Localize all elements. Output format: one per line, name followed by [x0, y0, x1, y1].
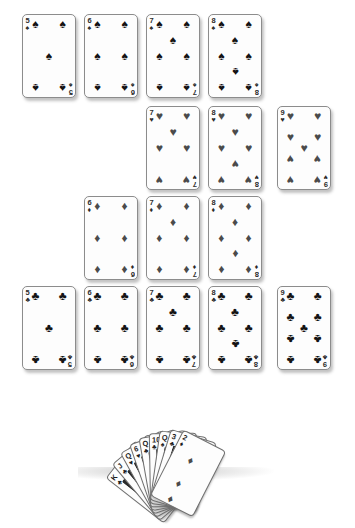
clubs-pip-icon: ♣ [242, 322, 255, 335]
spades-pip-icon: ♠ [242, 81, 255, 94]
card-rank-text: 6 [131, 270, 135, 278]
fanned-hand[interactable]: K♣J♣Q♥6♥Q♣10♣Q♠3♣2♦♦♦♦ [72, 381, 282, 486]
hearts-pip-icon: ♥ [215, 110, 228, 123]
spades-pip-icon: ♠ [215, 18, 228, 31]
hearts-pip-icon: ♥ [311, 173, 324, 186]
card-corner-index-br: 7♥ [193, 174, 197, 188]
card-corner-index-br: 9♥ [324, 174, 328, 188]
card-8-of-spades[interactable]: 8♠8♠♠♠♠♠♠♠♠♠ [208, 14, 262, 98]
hearts-pip-icon: ♥ [167, 126, 180, 139]
clubs-pip-icon: ♣ [284, 290, 297, 303]
spades-pip-icon: ♠ [153, 18, 166, 31]
hearts-pip-icon: ♥ [298, 142, 311, 155]
card-7-of-clubs[interactable]: 7♣7♣♣♣♣♣♣♣♣ [146, 286, 200, 370]
clubs-pip-icon: ♣ [91, 290, 104, 303]
clubs-pip-icon: ♣ [229, 306, 242, 319]
card-rank-text: 7 [193, 88, 197, 96]
spades-pip-icon: ♠ [91, 81, 104, 94]
card-rank-text: 7 [193, 180, 197, 188]
spades-pip-icon: ♠ [167, 34, 180, 47]
spades-pip-icon: ♠ [91, 50, 104, 63]
diamonds-pip-icon: ♦ [91, 232, 104, 245]
card-8-of-diamonds[interactable]: 8♦8♦♦♦♦♦♦♦♦♦ [208, 196, 262, 280]
card-rank-text: 5 [69, 88, 73, 96]
diamonds-pip-icon: ♦ [153, 232, 166, 245]
clubs-pip-icon: ♣ [215, 353, 228, 366]
card-7-of-hearts[interactable]: 7♥7♥♥♥♥♥♥♥♥ [146, 106, 200, 190]
clubs-pip-icon: ♣ [242, 290, 255, 303]
card-pip-field: ♠♠♠♠♠♠ [92, 19, 130, 93]
clubs-pip-icon: ♣ [284, 311, 297, 324]
spades-pip-icon: ♠ [29, 81, 42, 94]
spades-pip-icon: ♠ [180, 50, 193, 63]
clubs-pip-icon: ♣ [242, 353, 255, 366]
card-pip-field: ♠♠♠♠♠♠♠♠ [216, 19, 254, 93]
hearts-pip-icon: ♥ [180, 110, 193, 123]
clubs-pip-icon: ♣ [284, 332, 297, 345]
clubs-pip-icon: ♣ [311, 332, 324, 345]
card-6-of-spades[interactable]: 6♠6♠♠♠♠♠♠♠ [84, 14, 138, 98]
diamonds-pip-icon: ♦ [183, 453, 199, 468]
spades-pip-icon: ♠ [91, 18, 104, 31]
card-corner-index-br: 8♥ [255, 174, 259, 188]
clubs-pip-icon: ♣ [153, 290, 166, 303]
diamonds-pip-icon: ♦ [153, 263, 166, 276]
card-6-of-diamonds[interactable]: 6♦6♦♦♦♦♦♦♦ [84, 196, 138, 280]
card-5-of-clubs[interactable]: 5♣5♣♣♣♣♣♣ [22, 286, 76, 370]
card-pip-field: ♦♦♦♦♦♦♦♦ [216, 201, 254, 275]
card-5-of-spades[interactable]: 5♠5♠♠♠♠♠♠ [22, 14, 76, 98]
diamonds-pip-icon: ♦ [91, 200, 104, 213]
diamonds-pip-icon: ♦ [118, 200, 131, 213]
spades-pip-icon: ♠ [215, 50, 228, 63]
spades-pip-icon: ♠ [229, 65, 242, 78]
card-8-of-clubs[interactable]: 8♣8♣♣♣♣♣♣♣♣♣ [208, 286, 262, 370]
clubs-pip-icon: ♣ [229, 337, 242, 350]
clubs-pip-icon: ♣ [215, 322, 228, 335]
clubs-pip-icon: ♣ [180, 353, 193, 366]
hearts-pip-icon: ♥ [284, 110, 297, 123]
card-pip-field: ♣♣♣♣♣♣♣ [154, 291, 192, 365]
spades-pip-icon: ♠ [242, 18, 255, 31]
hearts-pip-icon: ♥ [180, 173, 193, 186]
diamonds-pip-icon: ♦ [180, 263, 193, 276]
diamonds-pip-icon: ♦ [215, 232, 228, 245]
hearts-pip-icon: ♥ [284, 152, 297, 165]
hearts-pip-icon: ♥ [153, 110, 166, 123]
spades-pip-icon: ♠ [43, 50, 56, 63]
spades-pip-icon: ♠ [153, 81, 166, 94]
card-pip-field: ♥♥♥♥♥♥♥♥ [216, 111, 254, 185]
clubs-pip-icon: ♣ [56, 290, 69, 303]
hearts-pip-icon: ♥ [242, 110, 255, 123]
spades-pip-icon: ♠ [242, 50, 255, 63]
diamonds-pip-icon: ♦ [118, 263, 131, 276]
clubs-pip-icon: ♣ [43, 322, 56, 335]
spades-pip-icon: ♠ [180, 81, 193, 94]
clubs-pip-icon: ♣ [298, 322, 311, 335]
card-pip-field: ♣♣♣♣♣♣♣♣ [216, 291, 254, 365]
diamonds-pip-icon: ♦ [118, 232, 131, 245]
diamonds-pip-icon: ♦ [91, 263, 104, 276]
spades-pip-icon: ♠ [180, 18, 193, 31]
diamonds-pip-icon: ♦ [167, 216, 180, 229]
diamonds-pip-icon: ♦ [229, 247, 242, 260]
diamonds-pip-icon: ♦ [180, 232, 193, 245]
hearts-pip-icon: ♥ [215, 173, 228, 186]
card-spread-canvas: 5♠5♠♠♠♠♠♠6♠6♠♠♠♠♠♠♠7♠7♠♠♠♠♠♠♠♠8♠8♠♠♠♠♠♠♠… [0, 0, 355, 528]
spades-pip-icon: ♠ [153, 50, 166, 63]
card-pip-field: ♠♠♠♠♠ [30, 19, 68, 93]
card-7-of-diamonds[interactable]: 7♦7♦♦♦♦♦♦♦♦ [146, 196, 200, 280]
card-rank-text: 8 [255, 180, 259, 188]
card-7-of-spades[interactable]: 7♠7♠♠♠♠♠♠♠♠ [146, 14, 200, 98]
clubs-pip-icon: ♣ [56, 353, 69, 366]
card-8-of-hearts[interactable]: 8♥8♥♥♥♥♥♥♥♥♥ [208, 106, 262, 190]
card-9-of-clubs[interactable]: 9♣9♣♣♣♣♣♣♣♣♣♣ [277, 286, 331, 370]
card-rank-text: 8 [255, 270, 259, 278]
hearts-pip-icon: ♥ [229, 157, 242, 170]
card-6-of-clubs[interactable]: 6♣6♣♣♣♣♣♣♣ [84, 286, 138, 370]
spades-pip-icon: ♠ [118, 81, 131, 94]
card-rank-text: 9 [324, 180, 328, 188]
card-9-of-hearts[interactable]: 9♥9♥♥♥♥♥♥♥♥♥♥ [277, 106, 331, 190]
card-corner-index-br: 8♠ [255, 82, 259, 96]
clubs-pip-icon: ♣ [91, 322, 104, 335]
hearts-pip-icon: ♥ [311, 131, 324, 144]
